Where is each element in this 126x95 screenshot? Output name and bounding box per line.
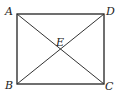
vertex-label-a: A (4, 5, 13, 18)
vertex-label-b: B (4, 79, 13, 92)
vertex-label-d: D (105, 5, 115, 18)
intersection-label-e: E (55, 36, 64, 49)
vertex-label-c: C (105, 80, 114, 93)
rectangle-diagram: A D B C E (0, 0, 126, 95)
